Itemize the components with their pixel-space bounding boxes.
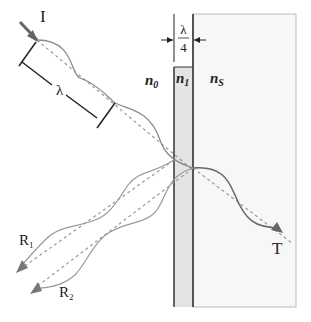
reflected-2-label: R2 [59,284,74,302]
incident-label: I [40,7,46,26]
wavelength-label: λ [56,82,64,98]
thickness-numerator: λ [180,22,187,37]
medium-0-label: n0 [145,72,158,90]
coating-layer [174,67,193,307]
thickness-denominator: 4 [180,40,187,55]
incident-beam [20,22,193,170]
transmitted-label: T [272,239,283,258]
anti-reflection-coating-diagram: λ 4 n0 n1 nS I λ T R1 [0,0,311,322]
reflected-1-label: R1 [19,232,34,250]
substrate-region [193,14,296,307]
reflected-beam-2 [30,168,193,294]
